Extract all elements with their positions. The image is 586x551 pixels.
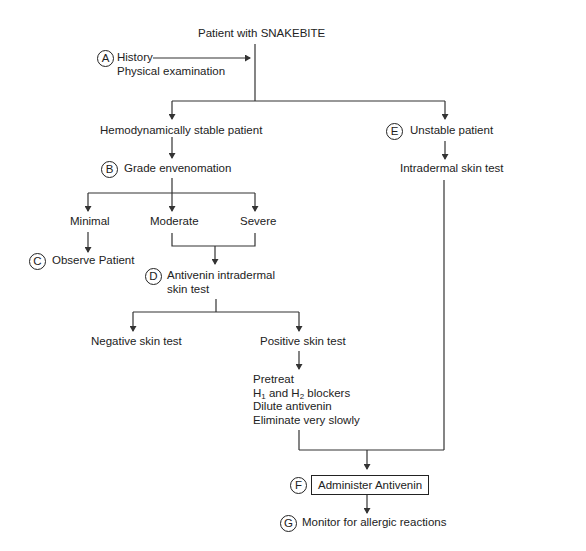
pretreat-line4: Eliminate very slowly (253, 414, 360, 428)
step-b-badge: B (101, 161, 118, 178)
step-a-badge: A (97, 50, 114, 67)
physical-exam-label: Physical examination (117, 65, 225, 79)
negative-skin-test-node: Negative skin test (91, 335, 182, 349)
step-c-badge: C (29, 253, 46, 270)
connector-lines (0, 0, 586, 551)
moderate-node: Moderate (150, 215, 199, 229)
step-f-badge: F (290, 477, 307, 494)
and-h2-text: and H (266, 387, 300, 399)
pretreat-line2: H1 and H2 blockers (253, 387, 350, 401)
snakebite-flowchart: Patient with SNAKEBITE A History Physica… (0, 0, 586, 551)
history-label: History (117, 51, 153, 65)
step-g-badge: G (280, 515, 297, 532)
step-d-badge: D (145, 268, 162, 285)
positive-skin-test-node: Positive skin test (260, 335, 346, 349)
monitor-allergic-node: Monitor for allergic reactions (302, 516, 446, 530)
minimal-node: Minimal (70, 215, 110, 229)
blockers-text: blockers (304, 387, 350, 399)
step-e-badge: E (386, 123, 403, 140)
grade-envenomation-node: Grade envenomation (124, 162, 231, 176)
unstable-patient-node: Unstable patient (410, 124, 493, 138)
antivenin-test-line2: skin test (167, 283, 209, 297)
stable-patient-node: Hemodynamically stable patient (100, 124, 262, 138)
root-node: Patient with SNAKEBITE (198, 27, 325, 41)
administer-antivenin-box: Administer Antivenin (311, 475, 429, 495)
antivenin-test-line1: Antivenin intradermal (167, 269, 275, 283)
pretreat-line1: Pretreat (253, 373, 294, 387)
severe-node: Severe (240, 215, 276, 229)
pretreat-line3: Dilute antivenin (253, 400, 332, 414)
observe-patient-node: Observe Patient (52, 254, 134, 268)
intradermal-skin-test-node: Intradermal skin test (400, 162, 504, 176)
